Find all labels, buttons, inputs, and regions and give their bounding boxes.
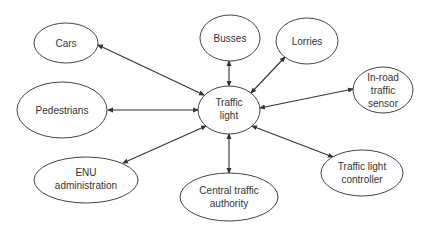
node-label: traffic [371, 85, 395, 96]
node-label: light [220, 110, 239, 121]
node-pedestrians: Pedestrians [17, 82, 107, 138]
node-label: controller [341, 174, 383, 185]
node-busses: Busses [200, 15, 260, 61]
node-label: authority [210, 198, 248, 209]
edge-controller [252, 126, 333, 157]
node-in-road-sensor: In-road traffic sensor [353, 67, 413, 113]
node-label: In-road [367, 72, 399, 83]
edge-cars [98, 45, 204, 95]
node-label: Pedestrians [36, 105, 89, 116]
node-label: sensor [368, 98, 399, 109]
context-diagram: Traffic light Cars Busses Lorries In-roa… [0, 0, 429, 233]
node-label: Traffic [215, 97, 242, 108]
node-cars: Cars [34, 23, 98, 63]
node-label: Traffic light [338, 161, 387, 172]
edge-in-road-sensor [260, 89, 353, 108]
node-central-traffic-authority: Central traffic authority [180, 173, 278, 221]
node-label: Central traffic [199, 185, 258, 196]
node-label: administration [55, 180, 117, 191]
node-label: Busses [214, 33, 247, 44]
edge-lorries [251, 57, 285, 93]
node-label: Lorries [292, 36, 323, 47]
node-label: Cars [55, 38, 76, 49]
node-label: ENU [75, 167, 96, 178]
edge-enu [123, 126, 206, 163]
node-traffic-light-controller: Traffic light controller [321, 150, 403, 196]
node-enu-administration: ENU administration [34, 157, 138, 203]
node-lorries: Lorries [276, 18, 338, 64]
node-traffic-light: Traffic light [198, 86, 260, 134]
